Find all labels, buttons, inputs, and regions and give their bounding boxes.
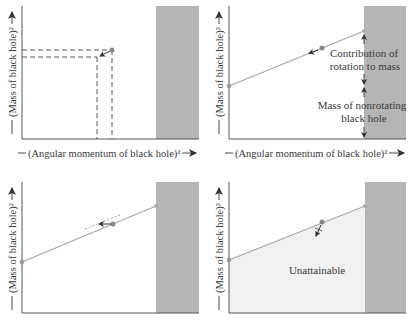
nonrotating-mass-label-line2: black hole — [341, 112, 387, 124]
end-point — [154, 204, 158, 208]
state-point — [320, 46, 325, 51]
unattainable-label: Unattainable — [289, 264, 345, 276]
constant-mass-line — [22, 206, 156, 262]
start-point — [227, 258, 232, 263]
start-point — [20, 260, 25, 265]
x-axis-label: (Angular momentum of black hole)² — [235, 148, 387, 160]
panel-top-left: (Mass of black hole)² (Angular momentum … — [7, 6, 199, 160]
rotation-contribution-label-line2: rotation to mass — [330, 60, 400, 72]
shaded-extremal-region — [365, 182, 406, 313]
panel-bottom-right: Unattainable (Mass of black hole)² — [214, 182, 406, 313]
x-axis-label: (Angular momentum of black hole)² — [28, 148, 180, 160]
nonrotating-mass-label-line1: Mass of nonrotating — [318, 99, 407, 111]
shaded-extremal-region — [156, 6, 199, 139]
end-point — [363, 204, 367, 208]
panel-bottom-left: (Mass of black hole)² — [7, 182, 199, 313]
dotted-tangent-line — [85, 215, 120, 229]
unattainable-region — [229, 206, 365, 313]
end-point — [362, 29, 366, 33]
panel-top-right: Contribution of rotation to mass Mass of… — [214, 6, 407, 160]
y-axis-label: (Mass of black hole)² — [7, 27, 19, 117]
state-point — [320, 220, 325, 225]
y-axis-label: (Mass of black hole)² — [214, 27, 226, 117]
state-point — [110, 48, 115, 53]
state-point — [111, 222, 116, 227]
black-hole-mass-diagram: (Mass of black hole)² (Angular momentum … — [0, 0, 414, 321]
shaded-extremal-region — [156, 182, 199, 313]
rotation-contribution-label-line1: Contribution of — [330, 47, 398, 59]
y-axis-label: (Mass of black hole)² — [7, 203, 19, 293]
start-point — [227, 84, 232, 89]
state-change-arrow — [309, 50, 318, 54]
y-axis-label: (Mass of black hole)² — [214, 203, 226, 293]
